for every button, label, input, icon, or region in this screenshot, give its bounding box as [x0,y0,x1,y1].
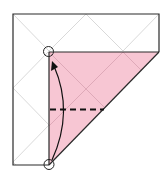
origami-diagram [0,0,168,180]
